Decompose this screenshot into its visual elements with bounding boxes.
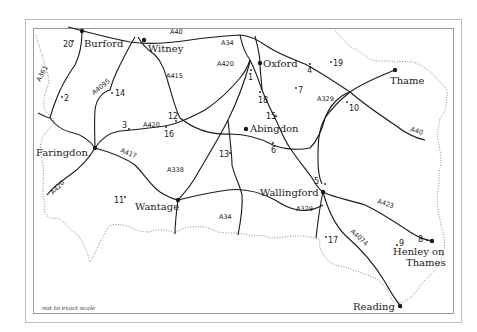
town-henley-line2: Thames [406,257,446,268]
town-abingdon: Abingdon [249,123,299,134]
road-label-a40-north: A40 [170,28,183,36]
road-label-a329-north: A329 [317,95,334,103]
road-a329-north [318,92,350,184]
road-label-a4074: A4074 [349,228,370,248]
road-a338 [175,62,250,234]
site-3: 3 [122,121,127,130]
town-markers [80,29,434,308]
site-8: 8 [418,235,423,244]
town-faringdon: Faringdon. [36,147,91,158]
road-a4074 [323,192,402,308]
site-2: 2 [64,94,69,103]
site-15: 15 [266,112,276,121]
town-wantage: Wantage [135,201,179,212]
road-label-a423: A423 [376,197,395,210]
road-faringdon-west [38,113,95,148]
town-thame: Thame [390,75,425,86]
site-9: 9 [399,239,404,248]
road-abingdon [180,70,395,149]
road-a329-south [316,192,323,238]
town-witney: Witney [148,43,184,54]
site-5: 5 [314,177,319,186]
site-1: 1 [248,73,253,82]
site-4: 4 [307,66,312,75]
county-boundary [36,30,447,303]
site-18: 18 [258,96,268,105]
town-reading: Reading [353,301,395,312]
road-label-a420-mid: A420 [143,121,160,129]
site-14: 14 [115,89,125,98]
town-oxford: Oxford [263,58,298,69]
site-19: 19 [333,59,343,68]
site-20: 20 [63,40,73,49]
road-label-a338: A338 [167,166,184,174]
road-label-a361: A361 [35,64,50,83]
site-10: 10 [349,104,359,113]
site-6: 6 [271,146,276,155]
scale-note: not to exact scale [42,304,95,311]
site-13: 13 [219,150,229,159]
oxfordshire-map: Burford Witney Oxford Thame Faringdon. A… [0,0,477,332]
road-label-a34-south: A34 [219,213,232,221]
site-17: 17 [328,236,338,245]
site-12: 12 [168,112,178,121]
road-label-a4095: A4095 [90,77,111,96]
road-label-a420-north: A420 [217,60,234,68]
road-label-a415: A415 [166,72,183,80]
road-label-a329-south: A329 [296,205,313,213]
road-label-a420-sw: A420 [49,179,67,197]
site-11: 11 [114,196,124,205]
site-16: 16 [164,130,174,139]
town-burford: Burford [84,38,124,49]
site-7: 7 [298,86,303,95]
town-wallingford: Wallingford [260,187,319,198]
roads [38,27,432,308]
road-label-a34-north: A34 [221,39,234,47]
